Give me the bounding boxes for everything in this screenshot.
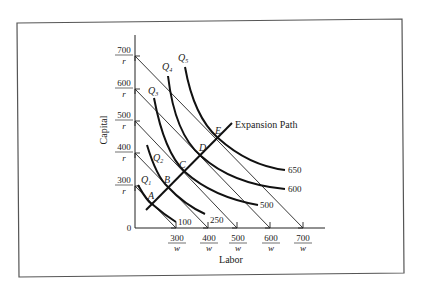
y-tick-600: 600 r: [115, 78, 133, 99]
point-c: C: [179, 159, 186, 170]
svg-text:500: 500: [117, 110, 131, 120]
q3-label: Q3: [148, 85, 158, 97]
q1-label: Q1: [141, 174, 151, 186]
svg-text:w: w: [300, 243, 306, 253]
x-tick-700: 700 w: [294, 233, 312, 253]
origin-label: 0: [127, 223, 132, 233]
y-tick-labels: 700 r 600 r 500 r 400 r 300 r 0: [115, 45, 133, 233]
output-600: 600: [288, 184, 302, 194]
x-tick-600: 600 w: [262, 233, 280, 253]
svg-text:400: 400: [202, 233, 216, 243]
isoquant-outputs: 100 250 500 600 650: [178, 165, 302, 227]
y-tick-500: 500 r: [115, 110, 133, 131]
y-tick-300: 300 r: [115, 175, 133, 196]
q4-label: Q4: [162, 61, 172, 73]
svg-text:600: 600: [264, 233, 278, 243]
svg-text:w: w: [268, 243, 274, 253]
svg-text:r: r: [122, 121, 126, 131]
svg-text:r: r: [122, 89, 126, 99]
production-diagram: 700 r 600 r 500 r 400 r 300 r 0 300: [0, 0, 422, 290]
output-250: 250: [210, 215, 224, 225]
svg-text:300: 300: [170, 233, 184, 243]
output-650: 650: [288, 165, 302, 175]
svg-text:700: 700: [296, 233, 310, 243]
svg-text:700: 700: [117, 45, 131, 55]
isocost-700: [135, 56, 303, 228]
svg-text:r: r: [122, 56, 126, 66]
output-500: 500: [260, 200, 274, 210]
svg-text:500: 500: [231, 233, 245, 243]
point-d: D: [198, 142, 207, 153]
x-tick-400: 400 w: [200, 233, 218, 253]
svg-text:w: w: [174, 243, 180, 253]
expansion-path: [146, 123, 232, 210]
point-b: B: [164, 174, 170, 185]
y-axis-title: Capital: [98, 115, 109, 144]
output-100: 100: [178, 217, 192, 227]
isocost-lines: [135, 56, 303, 228]
svg-text:r: r: [122, 186, 126, 196]
x-axis-title: Labor: [219, 254, 244, 265]
svg-text:w: w: [235, 243, 241, 253]
point-a: A: [147, 190, 155, 201]
point-e: E: [214, 125, 221, 136]
q2-label: Q2: [153, 152, 163, 164]
svg-text:r: r: [122, 153, 126, 163]
svg-text:400: 400: [117, 142, 131, 152]
q5-label: Q5: [178, 52, 188, 64]
svg-text:300: 300: [117, 175, 131, 185]
svg-text:600: 600: [117, 78, 131, 88]
y-tick-700: 700 r: [115, 45, 133, 66]
x-tick-500: 500 w: [229, 233, 247, 253]
expansion-path-label: Expansion Path: [235, 119, 298, 130]
x-tick-300: 300 w: [168, 233, 186, 253]
y-tick-400: 400 r: [115, 142, 133, 163]
x-tick-labels: 300 w 400 w 500 w 600 w 700 w: [168, 233, 312, 253]
svg-text:w: w: [206, 243, 212, 253]
